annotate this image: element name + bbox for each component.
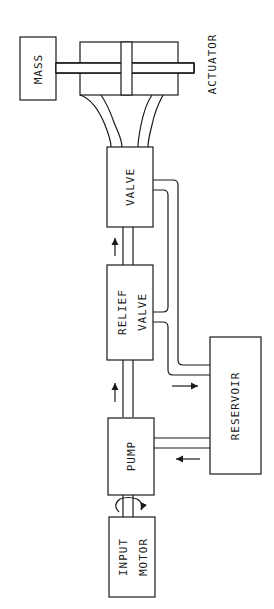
relief-valve-label-line2: VALVE (136, 293, 149, 331)
mass-block: MASS (20, 37, 56, 100)
valve-label: VALVE (124, 168, 137, 206)
return-lines (153, 180, 210, 375)
pump-label: PUMP (125, 441, 138, 472)
reservoir-label: RESERVOIR (229, 372, 242, 441)
piston (121, 42, 132, 95)
hydraulic-diagram: MASS ACTUATOR VALVE RELIEF VALVE (0, 0, 274, 609)
valve-actuator-lines (80, 95, 163, 147)
relief-valve-label-line1: RELIEF (116, 289, 129, 335)
mass-label: MASS (32, 54, 45, 85)
actuator-label: ACTUATOR (206, 34, 219, 95)
rotation-arrow-icon (116, 498, 142, 513)
pump-block: PUMP (108, 418, 154, 495)
relief-valve-block: RELIEF VALVE (107, 265, 153, 360)
reservoir-block: RESERVOIR (210, 337, 261, 474)
drive-shaft (116, 495, 142, 517)
actuator-cylinder (56, 42, 194, 95)
input-motor-label-line1: INPUT (117, 538, 130, 576)
input-motor-label-line2: MOTOR (137, 538, 150, 576)
input-motor-block: INPUT MOTOR (109, 517, 155, 597)
valve-block: VALVE (107, 147, 153, 227)
